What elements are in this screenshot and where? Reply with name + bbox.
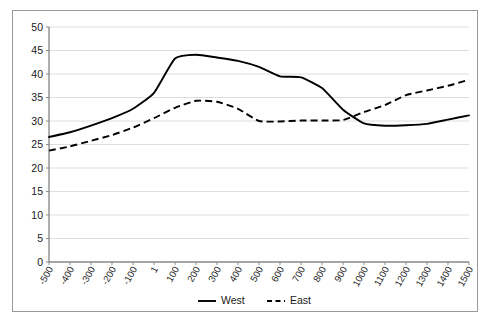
y-axis-tick-labels: 05101520253035404550 bbox=[31, 21, 43, 268]
y-tick-label: 30 bbox=[31, 115, 43, 127]
x-tick-label: -200 bbox=[99, 265, 118, 287]
y-tick-label: 0 bbox=[37, 256, 43, 268]
x-tick-label: 100 bbox=[164, 265, 181, 284]
y-tick-label: 25 bbox=[31, 138, 43, 150]
line-chart: 05101520253035404550 -500-400-300-200-10… bbox=[13, 11, 477, 311]
x-tick-label: 400 bbox=[227, 265, 244, 284]
x-tick-label: -100 bbox=[120, 265, 139, 287]
y-tick-label: 5 bbox=[37, 232, 43, 244]
y-tick-label: 45 bbox=[31, 44, 43, 56]
x-tick-label: 1400 bbox=[434, 265, 454, 289]
chart-frame: 05101520253035404550 -500-400-300-200-10… bbox=[12, 10, 478, 312]
legend-label-east[interactable]: East bbox=[290, 294, 311, 306]
gridlines-group bbox=[46, 27, 469, 262]
x-tick-label: 600 bbox=[269, 265, 286, 284]
x-tick-label: 900 bbox=[332, 265, 349, 284]
y-tick-label: 40 bbox=[31, 68, 43, 80]
y-tick-label: 35 bbox=[31, 91, 43, 103]
x-tick-label: 300 bbox=[206, 265, 223, 284]
x-tick-label: 500 bbox=[248, 265, 265, 284]
x-tick-label: 1500 bbox=[455, 265, 475, 289]
y-tick-label: 20 bbox=[31, 162, 43, 174]
y-tick-label: 10 bbox=[31, 209, 43, 221]
legend-label-west[interactable]: West bbox=[221, 294, 245, 306]
x-tick-label: 1100 bbox=[371, 265, 391, 288]
x-tick-label: -400 bbox=[57, 265, 76, 287]
chart-legend: WestEast bbox=[198, 294, 311, 306]
y-tick-label: 50 bbox=[31, 21, 43, 33]
y-tick-label: 15 bbox=[31, 185, 43, 197]
x-tick-label: 1200 bbox=[392, 265, 412, 289]
x-tick-label: 800 bbox=[311, 265, 328, 284]
x-tick-label: 200 bbox=[185, 265, 202, 284]
x-tick-label: 700 bbox=[290, 265, 307, 284]
x-axis-tick-labels: -500-400-300-200-10011002003004005006007… bbox=[36, 265, 475, 289]
x-tick-label: 1 bbox=[148, 265, 160, 275]
series-line-east bbox=[49, 80, 469, 151]
x-tick-label: 1300 bbox=[413, 265, 433, 289]
x-tick-label: 1000 bbox=[350, 265, 370, 289]
x-tick-label: -300 bbox=[78, 265, 97, 287]
